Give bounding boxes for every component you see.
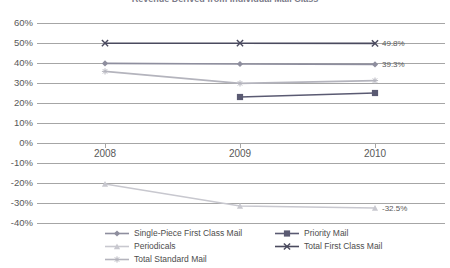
diamond-marker (102, 60, 108, 66)
legend-item[interactable]: Total First Class Mail (274, 241, 382, 252)
x-icon (274, 241, 300, 252)
asterisk-marker (372, 78, 378, 84)
legend-label: Priority Mail (304, 228, 348, 239)
data-point-label: 49.8% (382, 39, 405, 48)
diamond-marker (237, 61, 243, 67)
asterisk-marker (102, 68, 108, 74)
square-marker (284, 230, 290, 236)
legend-item[interactable]: Single-Piece First Class Mail (104, 228, 242, 239)
data-point-label: -32.5% (382, 204, 407, 213)
asterisk-marker (114, 256, 120, 262)
chart-legend: Single-Piece First Class MailPriority Ma… (104, 228, 440, 268)
square-marker (237, 94, 243, 100)
series-line (240, 93, 375, 97)
legend-label: Total Standard Mail (134, 254, 207, 265)
triangle-icon (104, 241, 130, 252)
legend-item[interactable]: Total Standard Mail (104, 254, 207, 265)
diamond-marker (114, 230, 120, 236)
asterisk-icon (104, 254, 130, 265)
square-icon (274, 228, 300, 239)
series-layer (0, 0, 450, 228)
asterisk-marker (237, 80, 243, 86)
square-marker (372, 90, 378, 96)
legend-label: Periodicals (134, 241, 176, 252)
legend-item[interactable]: Priority Mail (274, 228, 348, 239)
diamond-icon (104, 228, 130, 239)
plot-area: 60%50%40%30%20%10%0%-10%-20%-30%-40% 200… (0, 0, 450, 228)
legend-item[interactable]: Periodicals (104, 241, 176, 252)
data-point-label: 39.3% (382, 60, 405, 69)
legend-label: Single-Piece First Class Mail (134, 228, 242, 239)
legend-label: Total First Class Mail (304, 241, 382, 252)
diamond-marker (372, 61, 378, 67)
